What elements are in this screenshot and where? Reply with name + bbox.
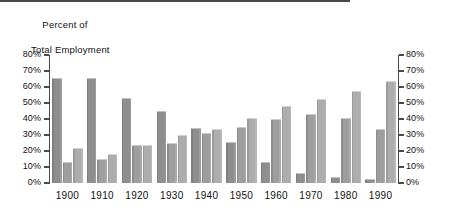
y-axis-left-tick bbox=[44, 182, 49, 183]
bar-shade bbox=[261, 163, 263, 183]
y-axis-left-tick-label: 80% bbox=[23, 49, 41, 59]
bar bbox=[376, 129, 386, 183]
bar-shade bbox=[386, 82, 388, 183]
bar-highlight bbox=[373, 180, 375, 183]
bar bbox=[52, 78, 62, 183]
bar bbox=[306, 114, 316, 183]
bar-highlight bbox=[140, 146, 142, 183]
bar-highlight bbox=[105, 160, 107, 183]
bar-highlight bbox=[199, 129, 201, 183]
y-axis-right-tick bbox=[399, 166, 404, 167]
bar-highlight bbox=[314, 115, 316, 183]
bar-shade bbox=[365, 180, 367, 183]
bar-highlight bbox=[394, 82, 396, 183]
bar-shade bbox=[143, 146, 145, 183]
bar-highlight bbox=[186, 136, 188, 183]
bar-highlight bbox=[220, 130, 222, 183]
bar bbox=[143, 145, 153, 183]
y-axis-right-tick-label: 40% bbox=[406, 113, 424, 123]
bar-highlight bbox=[279, 120, 281, 183]
bar-highlight bbox=[325, 100, 327, 183]
bar bbox=[261, 162, 271, 183]
bar-shade bbox=[73, 149, 75, 183]
y-axis-right-tick bbox=[399, 54, 404, 55]
y-axis-left-tick-label: 30% bbox=[23, 129, 41, 139]
y-axis-right-tick bbox=[399, 134, 404, 135]
bar bbox=[386, 81, 396, 183]
y-axis-left-tick bbox=[44, 54, 49, 55]
bar bbox=[167, 143, 177, 183]
bar-shade bbox=[282, 107, 284, 183]
bar-highlight bbox=[360, 92, 362, 183]
bar bbox=[87, 78, 97, 183]
y-axis-right-tick-label: 30% bbox=[406, 129, 424, 139]
bar bbox=[247, 118, 257, 183]
y-axis-right-tick-label: 0% bbox=[406, 177, 419, 187]
bar bbox=[237, 127, 247, 183]
bar-shade bbox=[247, 119, 249, 183]
y-axis-right-tick bbox=[399, 150, 404, 151]
bar bbox=[157, 111, 167, 183]
bar-shade bbox=[306, 115, 308, 183]
bar-shade bbox=[52, 79, 54, 183]
bar-highlight bbox=[165, 112, 167, 183]
y-axis-right-tick bbox=[399, 118, 404, 119]
bar-shade bbox=[178, 136, 180, 183]
bar-highlight bbox=[71, 163, 73, 183]
bar-shade bbox=[226, 143, 228, 183]
y-axis-right-tick-label: 10% bbox=[406, 161, 424, 171]
bar-highlight bbox=[130, 99, 132, 183]
x-axis-tick-label: 1990 bbox=[361, 190, 401, 201]
bar bbox=[282, 106, 292, 183]
bar-shade bbox=[331, 178, 333, 183]
y-axis-left-tick-label: 10% bbox=[23, 161, 41, 171]
y-axis-right-tick-label: 50% bbox=[406, 97, 424, 107]
bar-shade bbox=[271, 120, 273, 183]
bar-shade bbox=[341, 119, 343, 183]
plot-area bbox=[50, 55, 398, 183]
bar bbox=[341, 118, 351, 183]
bar-shade bbox=[352, 92, 354, 183]
bar bbox=[63, 162, 73, 183]
bar-shade bbox=[132, 146, 134, 183]
bar bbox=[191, 128, 201, 183]
bar-shade bbox=[63, 163, 65, 183]
y-axis-right-tick bbox=[399, 86, 404, 87]
bar bbox=[352, 91, 362, 183]
bar bbox=[271, 119, 281, 183]
bar bbox=[317, 99, 327, 183]
y-axis-right-tick bbox=[399, 102, 404, 103]
bar bbox=[296, 173, 306, 183]
bar-shade bbox=[191, 129, 193, 183]
y-axis-left-tick bbox=[44, 134, 49, 135]
y-axis-left-tick bbox=[44, 150, 49, 151]
bar-highlight bbox=[95, 79, 97, 183]
bar-shade bbox=[97, 160, 99, 183]
bar-shade bbox=[237, 128, 239, 183]
y-axis-left-tick-label: 40% bbox=[23, 113, 41, 123]
bar bbox=[331, 177, 341, 183]
y-axis-left-tick-label: 50% bbox=[23, 97, 41, 107]
bar bbox=[226, 142, 236, 183]
y-axis-right-tick bbox=[399, 70, 404, 71]
y-axis-left-tick-label: 60% bbox=[23, 81, 41, 91]
bar bbox=[132, 145, 142, 183]
y-axis-left-tick-label: 20% bbox=[23, 145, 41, 155]
bar-shade bbox=[212, 130, 214, 183]
bar-highlight bbox=[60, 79, 62, 183]
y-axis-right-tick-label: 60% bbox=[406, 81, 424, 91]
bar-shade bbox=[296, 174, 298, 183]
y-axis-left-tick bbox=[44, 118, 49, 119]
y-axis-left-tick bbox=[44, 102, 49, 103]
bar bbox=[178, 135, 188, 183]
y-axis-right-tick bbox=[399, 182, 404, 183]
bar-highlight bbox=[255, 119, 257, 183]
bar-shade bbox=[87, 79, 89, 183]
bar-shade bbox=[122, 99, 124, 183]
bar-shade bbox=[376, 130, 378, 183]
bar-highlight bbox=[245, 128, 247, 183]
chart-root: Percent of Total Employment 0%10%20%30%4… bbox=[0, 0, 451, 213]
y-axis-right-tick-label: 70% bbox=[406, 65, 424, 75]
bar-highlight bbox=[81, 149, 83, 183]
bar bbox=[365, 179, 375, 183]
